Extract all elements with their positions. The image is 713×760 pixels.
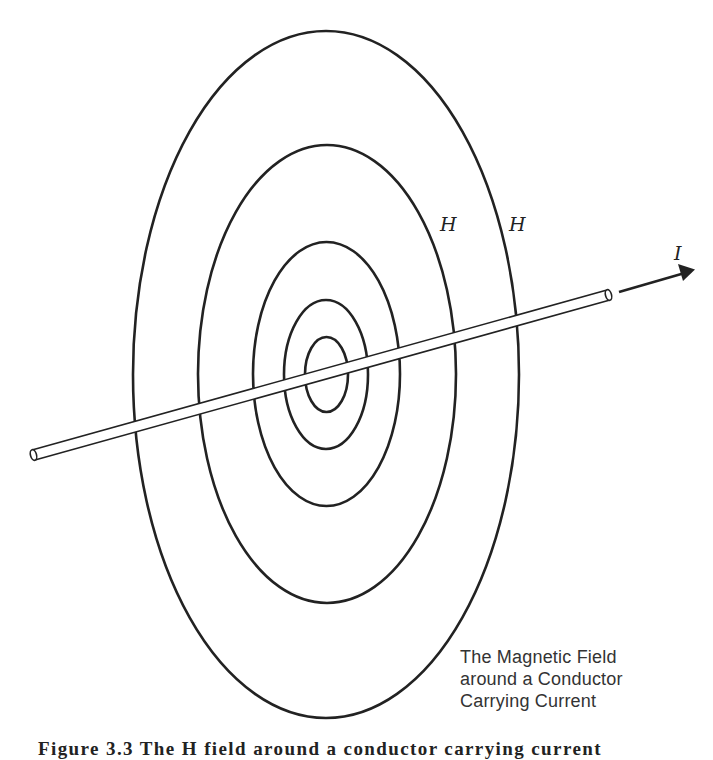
current-label: I [674,244,682,263]
annotation-line-2: around a Conductor [460,668,623,690]
rod-body [32,290,610,460]
current-arrow-shaft [619,274,683,293]
annotation-line-1: The Magnetic Field [460,646,623,668]
current-arrow [619,264,695,292]
current-arrow-head-icon [678,264,695,281]
field-label-inner: H [440,215,457,234]
figure-caption: Figure 3.3 The H field around a conducto… [38,738,602,760]
diagram-annotation: The Magnetic Field around a Conductor Ca… [460,646,623,712]
rod-top-edge [32,290,607,450]
annotation-line-3: Carrying Current [460,690,623,712]
conductor-rod [29,289,613,461]
field-label-outer: H [509,215,526,234]
rod-bottom-edge [35,300,610,460]
